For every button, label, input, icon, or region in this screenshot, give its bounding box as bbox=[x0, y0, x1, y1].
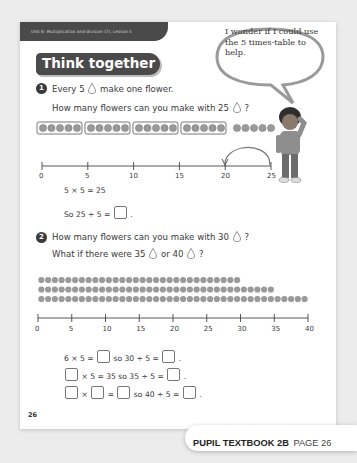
footer-text: PUPIL TEXTBOOK 2B PAGE 26 bbox=[193, 432, 331, 450]
q1-eq2-end: . bbox=[130, 210, 132, 219]
section-banner: Think together bbox=[36, 53, 160, 75]
petal-icon bbox=[88, 83, 96, 94]
answer-box[interactable] bbox=[65, 368, 78, 381]
q1-equation-1: 5 × 5 = 25 bbox=[64, 186, 106, 195]
footer-book: PUPIL TEXTBOOK 2B bbox=[193, 438, 289, 448]
unit-header-bar: Unit 6: Multiplication and division (2),… bbox=[20, 22, 168, 41]
answer-box[interactable] bbox=[183, 386, 196, 399]
page-number: 26 bbox=[28, 411, 37, 419]
q2-equation-3: × = so 40 ÷ 5 = . bbox=[64, 386, 202, 399]
textbook-page: Unit 6: Multiplication and division (2),… bbox=[20, 22, 336, 429]
answer-box[interactable] bbox=[167, 368, 180, 381]
q1-line1-start: Every 5 bbox=[52, 84, 85, 94]
q2-tick-label: 20 bbox=[170, 325, 179, 333]
question-number-2: 2 bbox=[36, 232, 47, 243]
answer-box[interactable] bbox=[65, 386, 78, 399]
q1-tick-20: 20 bbox=[221, 172, 230, 180]
q2-tick-label: 15 bbox=[136, 325, 145, 333]
q2-eq1-b: so 30 ÷ 5 = bbox=[113, 354, 158, 363]
petal-icon bbox=[187, 248, 195, 259]
q2-eq1-a: 6 × 5 = bbox=[64, 354, 94, 363]
answer-box[interactable] bbox=[162, 350, 175, 363]
q1-equation-2: So 25 ÷ 5 = . bbox=[64, 206, 133, 219]
q1-line1-end: make one flower. bbox=[100, 84, 174, 94]
q2-equation-2: × 5 = 35 so 35 ÷ 5 = . bbox=[64, 368, 186, 381]
q2-counter-rows bbox=[36, 276, 316, 306]
q2-tick-label: 40 bbox=[305, 325, 314, 333]
q1-number-line bbox=[36, 142, 286, 182]
q2-eq3-c: so 40 ÷ 5 = bbox=[134, 390, 179, 399]
q2-equation-1: 6 × 5 = so 30 ÷ 5 = . bbox=[64, 350, 181, 363]
q2-line1: How many flowers can you make with 30 ? bbox=[52, 231, 249, 242]
footer-page: PAGE 26 bbox=[293, 438, 331, 448]
question-number-1: 1 bbox=[36, 83, 47, 94]
petal-icon bbox=[233, 231, 241, 242]
q2-line2-b: or 40 bbox=[161, 249, 183, 259]
q2-tick-label: 30 bbox=[238, 325, 247, 333]
q2-tick-label: 10 bbox=[103, 325, 112, 333]
q2-eq3-a: × bbox=[81, 390, 87, 399]
q2-line1-start: How many flowers can you make with 30 bbox=[52, 232, 229, 242]
q2-number-line bbox=[36, 312, 316, 324]
petal-icon bbox=[233, 102, 241, 113]
speech-bubble-text: I wonder if I could use the 5 times-tabl… bbox=[225, 26, 321, 58]
footer-book-label: PUPIL TEXTBOOK 2B PAGE 26 bbox=[185, 425, 357, 451]
q2-tick-label: 25 bbox=[204, 325, 213, 333]
q1-counters bbox=[36, 121, 282, 135]
q2-eq2-a: × 5 = 35 so 35 ÷ 5 = bbox=[81, 372, 163, 381]
q1-tick-15: 15 bbox=[175, 172, 184, 180]
q1-line2-start: How many flowers can you make with 25 bbox=[52, 103, 229, 113]
q2-line2: What if there were 35 or 40 ? bbox=[52, 248, 204, 259]
q2-line2-a: What if there were 35 bbox=[52, 249, 146, 259]
q2-eq1-c: . bbox=[179, 354, 181, 363]
q1-line2-end: ? bbox=[245, 103, 250, 113]
q2-eq3-b: = bbox=[108, 390, 114, 399]
q1-tick-5: 5 bbox=[85, 172, 89, 180]
petal-icon bbox=[149, 248, 157, 259]
answer-box[interactable] bbox=[114, 206, 127, 219]
q2-tick-label: 0 bbox=[35, 325, 39, 333]
q1-tick-25: 25 bbox=[267, 172, 276, 180]
q2-line1-end: ? bbox=[245, 232, 250, 242]
answer-box[interactable] bbox=[117, 386, 130, 399]
q1-line2: How many flowers can you make with 25 ? bbox=[52, 102, 249, 113]
q2-eq3-d: . bbox=[199, 390, 201, 399]
q2-tick-label: 5 bbox=[69, 325, 73, 333]
q1-tick-10: 10 bbox=[129, 172, 138, 180]
section-title: Think together bbox=[42, 55, 155, 71]
q2-line2-c: ? bbox=[199, 249, 204, 259]
q1-eq2-text: So 25 ÷ 5 = bbox=[64, 210, 110, 219]
unit-label: Unit 6: Multiplication and division (2),… bbox=[31, 29, 132, 34]
q1-tick-0: 0 bbox=[39, 172, 43, 180]
q2-tick-label: 35 bbox=[271, 325, 280, 333]
q1-line1: Every 5 make one flower. bbox=[52, 83, 174, 94]
q2-eq2-b: . bbox=[184, 372, 186, 381]
answer-box[interactable] bbox=[91, 386, 104, 399]
answer-box[interactable] bbox=[97, 350, 110, 363]
